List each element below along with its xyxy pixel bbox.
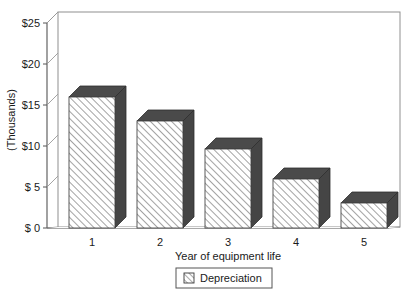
legend-label-depreciation: Depreciation xyxy=(200,272,262,284)
chart-canvas: $25 $20 $15 $10 xyxy=(0,0,414,299)
legend-swatch-depreciation xyxy=(184,273,194,283)
x-tick-label-3: 3 xyxy=(225,236,231,248)
x-tick-label-1: 1 xyxy=(89,236,95,248)
bar-year-4 xyxy=(273,168,330,228)
y-tick-label-20: $20 xyxy=(22,58,40,70)
chart-legend: Depreciation xyxy=(176,268,272,288)
bar-year-1 xyxy=(69,86,126,228)
y-tick-label-25: $25 xyxy=(22,17,40,29)
x-tick-label-5: 5 xyxy=(361,236,367,248)
x-tick-label-4: 4 xyxy=(293,236,299,248)
bar-year-3 xyxy=(205,138,262,228)
y-tick-label-5: $ 5 xyxy=(25,181,40,193)
y-tick-label-0: $ 0 xyxy=(25,222,40,234)
bar-year-2 xyxy=(137,110,194,228)
y-tick-label-15: $15 xyxy=(22,99,40,111)
x-tick-label-2: 2 xyxy=(157,236,163,248)
bar-year-5 xyxy=(341,192,398,228)
y-axis-title: (Thousands) xyxy=(5,89,17,151)
y-tick-label-10: $10 xyxy=(22,140,40,152)
depreciation-bar-chart: $25 $20 $15 $10 xyxy=(0,0,414,299)
x-axis-title: Year of equipment life xyxy=(175,250,281,262)
